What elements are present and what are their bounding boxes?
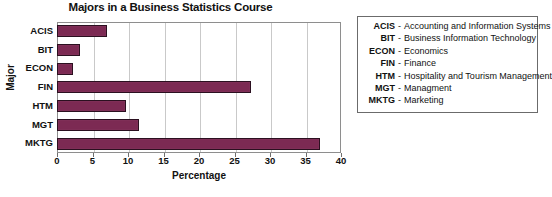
x-tickmark-30 (270, 153, 271, 157)
legend-abbr: MGT (361, 83, 395, 93)
x-tickmark-15 (164, 153, 165, 157)
legend-dash: - (395, 58, 404, 68)
legend-description: Economics (404, 46, 448, 56)
legend-item-bit: BIT-Business Information Technology (361, 33, 532, 45)
x-tickmark-20 (199, 153, 200, 157)
x-tickmark-0 (57, 153, 58, 157)
legend-item-mgt: MGT-Managment (361, 83, 532, 95)
bar-bit[interactable] (57, 44, 80, 56)
legend-item-fin: FIN-Finance (361, 58, 532, 70)
bar-row (57, 22, 341, 41)
legend-abbr: FIN (361, 58, 395, 68)
y-tick-fin: FIN (0, 78, 53, 97)
y-axis-tick-labels: ACISBITECONFINHTMMGTMKTG (0, 22, 53, 153)
legend-description: Finance (404, 58, 436, 68)
legend-abbr: MKTG (361, 95, 395, 105)
bar-econ[interactable] (57, 63, 73, 75)
chart-title: Majors in a Business Statistics Course (0, 1, 341, 13)
legend-dash: - (395, 83, 404, 93)
bar-row (57, 116, 341, 135)
bar-row (57, 134, 341, 153)
bar-row (57, 41, 341, 60)
y-tick-mgt: MGT (0, 116, 53, 135)
legend-item-econ: ECON-Economics (361, 46, 532, 58)
y-tick-mktg: MKTG (0, 134, 53, 153)
y-tick-acis: ACIS (0, 22, 53, 41)
bar-fin[interactable] (57, 81, 251, 93)
bar-row (57, 97, 341, 116)
x-tickmark-25 (235, 153, 236, 157)
legend-abbr: HTM (361, 71, 395, 81)
bar-row (57, 78, 341, 97)
x-axis-label: Percentage (57, 170, 341, 181)
legend-item-acis: ACIS-Accounting and Information Systems (361, 21, 532, 33)
legend-item-mktg: MKTG-Marketing (361, 95, 532, 107)
legend-dash: - (395, 21, 404, 31)
bar-htm[interactable] (57, 100, 126, 112)
bar-acis[interactable] (57, 25, 107, 37)
x-tickmark-10 (128, 153, 129, 157)
legend-dash: - (395, 71, 404, 81)
y-tick-htm: HTM (0, 97, 53, 116)
bar-row (57, 59, 341, 78)
legend-description: Hospitality and Tourism Management (404, 71, 552, 81)
legend-abbr: ACIS (361, 21, 395, 31)
x-tickmark-40 (341, 153, 342, 157)
legend-abbr: BIT (361, 33, 395, 43)
legend-item-htm: HTM-Hospitality and Tourism Management (361, 71, 532, 83)
legend-description: Marketing (404, 95, 444, 105)
bars-layer (57, 22, 341, 153)
legend-dash: - (395, 46, 404, 56)
legend-box: ACIS-Accounting and Information SystemsB… (357, 16, 538, 113)
bar-mgt[interactable] (57, 119, 139, 131)
legend-dash: - (395, 95, 404, 105)
y-tick-bit: BIT (0, 41, 53, 60)
bar-mktg[interactable] (57, 138, 320, 150)
legend-abbr: ECON (361, 46, 395, 56)
x-tickmark-35 (306, 153, 307, 157)
y-tick-econ: ECON (0, 59, 53, 78)
legend-description: Business Information Technology (404, 33, 536, 43)
legend-dash: - (395, 33, 404, 43)
x-tickmark-5 (93, 153, 94, 157)
legend-description: Managment (404, 83, 452, 93)
legend-description: Accounting and Information Systems (404, 21, 551, 31)
x-axis-tick-labels: 0510152025303540 (57, 155, 341, 169)
